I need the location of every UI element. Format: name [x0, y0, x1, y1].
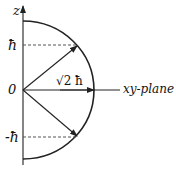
xy-plane-label: xy-plane [123, 83, 174, 95]
neg-hbar-label: -ħ [5, 130, 19, 144]
angular-momentum-diagram: z ħ 0 -ħ √2 ħ xy-plane [0, 0, 176, 172]
origin-label: 0 [8, 83, 16, 96]
z-axis-label: z [13, 4, 20, 17]
hbar-label: ħ [8, 38, 17, 52]
sqrt2-hbar-label: √2 ħ [56, 75, 83, 87]
vector-lower [23, 90, 77, 136]
